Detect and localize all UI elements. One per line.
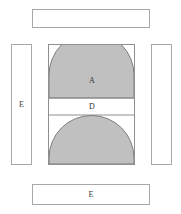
panel-left: E bbox=[11, 44, 32, 165]
core-assembly: A D bbox=[48, 44, 135, 165]
diagram-canvas: E E A D bbox=[0, 0, 181, 214]
panel-bottom-label: E bbox=[88, 191, 93, 199]
panel-top bbox=[32, 9, 150, 28]
region-label-a: A bbox=[89, 77, 95, 85]
upper-dome-shape bbox=[49, 45, 134, 98]
panel-bottom: E bbox=[32, 184, 150, 205]
region-label-d: D bbox=[89, 103, 95, 111]
panel-left-label: E bbox=[19, 101, 24, 109]
panel-right bbox=[151, 44, 172, 165]
lower-semicircle-shape bbox=[49, 116, 134, 165]
